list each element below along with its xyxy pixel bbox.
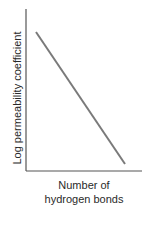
x-axis-label-line1: Number of bbox=[26, 178, 142, 192]
x-axis-label: Number of hydrogen bonds bbox=[26, 178, 142, 206]
trend-line bbox=[36, 32, 125, 164]
x-axis-label-line2: hydrogen bonds bbox=[26, 192, 142, 206]
